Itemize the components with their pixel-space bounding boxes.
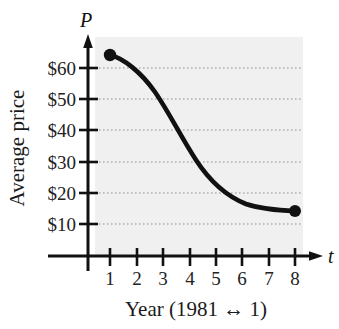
x-tick-label-3: 3	[158, 268, 168, 289]
y-tick-label-10: $10	[48, 214, 77, 235]
y-axis-arrowhead	[83, 34, 93, 48]
average-price-line-chart: $60 $50 $40 $30 $20 $10 1 2 3 4 5 6 7 8 …	[0, 0, 339, 329]
x-tick-label-1: 1	[105, 268, 115, 289]
x-tick-label-2: 2	[132, 268, 142, 289]
y-axis-symbol: P	[79, 9, 92, 31]
x-tick-label-4: 4	[185, 268, 195, 289]
y-tick-label-30: $30	[48, 152, 77, 173]
x-axis-symbol: t	[328, 245, 334, 267]
data-point-marker-end	[289, 205, 301, 217]
y-tick-label-40: $40	[48, 120, 77, 141]
x-tick-label-7: 7	[264, 268, 274, 289]
plot-area-background	[95, 37, 303, 256]
y-tick-label-20: $20	[48, 183, 77, 204]
x-axis-title: Year (1981 ↔ 1)	[125, 297, 267, 321]
y-axis-title: Average price	[5, 90, 29, 207]
x-tick-label-8: 8	[290, 268, 300, 289]
x-tick-label-6: 6	[237, 268, 247, 289]
chart-figure: $60 $50 $40 $30 $20 $10 1 2 3 4 5 6 7 8 …	[0, 0, 339, 329]
x-axis-arrowhead	[309, 251, 323, 261]
x-tick-label-5: 5	[211, 268, 221, 289]
y-tick-label-50: $50	[48, 89, 77, 110]
data-point-marker-start	[104, 49, 116, 61]
y-tick-label-60: $60	[48, 58, 77, 79]
